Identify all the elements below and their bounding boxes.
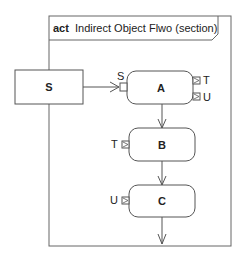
pin-a-output-t[interactable]: T [193, 74, 210, 86]
flow-c-out [158, 217, 166, 244]
pin-a-output-u-label: U [203, 91, 211, 103]
pin-c-input-u[interactable]: U [110, 194, 129, 206]
frame-keyword: act [53, 22, 69, 34]
flow-s-to-a [83, 82, 119, 92]
action-b-label: B [158, 139, 166, 151]
pin-c-input-label: U [110, 194, 118, 206]
flow-b-to-c [158, 161, 166, 185]
action-a[interactable]: A [127, 71, 193, 104]
pin-a-input-s[interactable]: S [117, 70, 127, 91]
object-node-s[interactable]: S [15, 70, 83, 104]
action-c-label: C [158, 195, 166, 207]
action-b[interactable]: B [129, 128, 195, 161]
flow-a-to-b [158, 104, 166, 128]
object-node-label: S [45, 81, 52, 93]
pin-b-input-t[interactable]: T [111, 138, 129, 150]
activity-diagram: act Indirect Object Flwo (section) S A S… [0, 0, 244, 270]
pin-a-output-t-label: T [203, 74, 210, 86]
pin-b-input-label: T [111, 138, 118, 150]
pin-a-input-label: S [117, 70, 124, 82]
action-a-label: A [157, 82, 165, 94]
action-c[interactable]: C [129, 185, 195, 217]
pin-a-output-u[interactable]: U [193, 91, 211, 103]
svg-text:act Indirect Object Flwo: act Indirect Object Flwo (section) [53, 22, 217, 34]
frame-title: Indirect Object Flwo (section) [75, 22, 217, 34]
